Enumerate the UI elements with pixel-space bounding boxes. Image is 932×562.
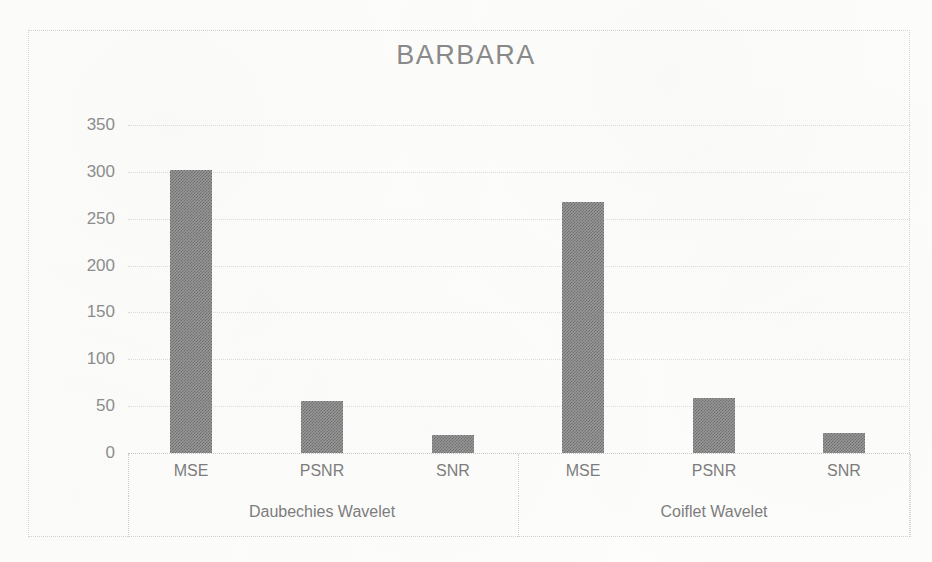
y-axis-tick-label: 350	[87, 115, 115, 135]
bar	[823, 433, 865, 453]
y-axis-tick-label: 200	[87, 256, 115, 276]
bar	[562, 202, 604, 453]
y-axis-tick-label: 150	[87, 302, 115, 322]
plot-area: 050100150200250300350	[128, 120, 910, 453]
x-axis-group-label: Coiflet Wavelet	[661, 503, 768, 521]
chart-title: BARBARA	[0, 40, 932, 71]
gridline	[128, 406, 910, 407]
bar	[693, 398, 735, 453]
x-axis-group-label: Daubechies Wavelet	[249, 503, 395, 521]
y-axis-tick-label: 100	[87, 349, 115, 369]
bar	[432, 435, 474, 453]
gridline	[128, 359, 910, 360]
bar	[301, 401, 343, 453]
group-label-band: Daubechies WaveletCoiflet Wavelet	[128, 496, 910, 537]
category-band-separator	[518, 454, 519, 496]
category-label-band: MSEPSNRSNRMSEPSNRSNR	[128, 454, 910, 496]
bar	[170, 170, 212, 453]
y-axis-tick-label: 50	[96, 396, 115, 416]
gridline	[128, 172, 910, 173]
group-band-separator	[518, 496, 519, 537]
x-axis-category-label: SNR	[827, 462, 861, 480]
group-band-separator	[128, 496, 129, 537]
chart-page: BARBARA 050100150200250300350 MSEPSNRSNR…	[0, 0, 932, 562]
group-band-bottom-rule	[128, 536, 910, 537]
x-axis-category-label: SNR	[436, 462, 470, 480]
x-axis-category-label: PSNR	[300, 462, 344, 480]
gridline	[128, 125, 910, 126]
x-axis-category-label: MSE	[174, 462, 209, 480]
y-axis-tick-label: 300	[87, 162, 115, 182]
category-band-separator	[910, 454, 911, 496]
x-axis-category-label: MSE	[566, 462, 601, 480]
category-band-separator	[128, 454, 129, 496]
gridline	[128, 266, 910, 267]
gridline	[128, 219, 910, 220]
gridline	[128, 312, 910, 313]
group-band-separator	[910, 496, 911, 537]
y-axis-tick-label: 250	[87, 209, 115, 229]
y-axis-tick-label: 0	[106, 443, 115, 463]
x-axis-category-label: PSNR	[692, 462, 736, 480]
